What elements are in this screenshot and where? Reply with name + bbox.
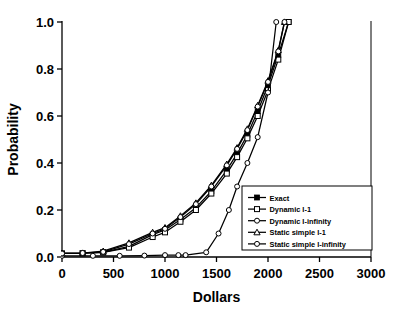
series-4-point-1 xyxy=(80,251,85,256)
series-1-point-10 xyxy=(235,155,240,160)
series-4-point-4 xyxy=(150,231,155,236)
series-4-point-10 xyxy=(235,146,240,151)
legend-label-2: Dynamic I-infinity xyxy=(270,217,332,226)
legend: ExactDynamic I-1Dynamic I-infinityStatic… xyxy=(242,186,372,250)
series-4-point-9 xyxy=(224,163,229,168)
series-4-point-6 xyxy=(178,215,183,220)
legend-label-0: Exact xyxy=(270,194,290,203)
x-tick-label-5: 2500 xyxy=(305,266,334,281)
y-axis-title: Probability xyxy=(5,103,21,176)
series-4-point-12 xyxy=(255,104,260,109)
x-tick-label-3: 1500 xyxy=(202,266,231,281)
series-4-point-8 xyxy=(209,184,214,189)
series-1-point-12 xyxy=(255,114,260,119)
y-tick-label-0: 0.0 xyxy=(36,250,54,265)
legend-marker-4 xyxy=(255,241,260,246)
series-1-point-9 xyxy=(224,171,229,176)
series-4-point-5 xyxy=(163,226,168,231)
legend-label-3: Static simple I-1 xyxy=(270,228,326,237)
series-1-point-8 xyxy=(209,191,214,196)
series-2-point-6 xyxy=(183,253,188,258)
y-tick-label-2: 0.4 xyxy=(36,156,55,171)
series-4-point-13 xyxy=(266,79,271,84)
y-tick-label-1: 0.2 xyxy=(36,203,54,218)
x-tick-label-4: 2000 xyxy=(254,266,283,281)
series-2-point-5 xyxy=(176,253,181,258)
series-2-point-11 xyxy=(245,161,250,166)
cdf-line-chart: 0.00.20.40.60.81.00500100015002000250030… xyxy=(0,0,405,328)
y-tick-label-4: 0.8 xyxy=(36,62,54,77)
series-2-point-12 xyxy=(255,135,260,140)
y-tick-label-5: 1.0 xyxy=(36,15,54,30)
series-4-point-11 xyxy=(245,128,250,133)
series-2-point-1 xyxy=(90,253,95,258)
series-2-point-13 xyxy=(266,90,271,95)
x-axis-title: Dollars xyxy=(193,289,241,305)
series-4-point-15 xyxy=(282,20,287,25)
series-2-point-4 xyxy=(163,253,168,258)
series-4-point-3 xyxy=(126,242,131,247)
x-tick-label-2: 1000 xyxy=(151,266,180,281)
series-4-point-7 xyxy=(193,202,198,207)
series-2-point-10 xyxy=(235,184,240,189)
chart-container: 0.00.20.40.60.81.00500100015002000250030… xyxy=(0,0,405,328)
series-1-point-7 xyxy=(193,208,198,213)
y-tick-label-3: 0.6 xyxy=(36,109,54,124)
series-1-point-11 xyxy=(245,136,250,141)
series-2-point-7 xyxy=(204,250,209,255)
series-2-point-9 xyxy=(226,208,231,213)
series-4-point-2 xyxy=(101,249,106,254)
legend-marker-1 xyxy=(255,207,260,212)
legend-label-4: Static simple I-infinity xyxy=(270,240,347,249)
series-2-point-3 xyxy=(142,253,147,258)
series-2-point-2 xyxy=(117,253,122,258)
series-2-point-8 xyxy=(216,231,221,236)
series-2-point-14 xyxy=(274,20,279,25)
x-tick-label-1: 500 xyxy=(103,266,125,281)
legend-marker-0 xyxy=(255,195,260,200)
series-4-point-14 xyxy=(276,49,281,54)
x-tick-label-6: 3000 xyxy=(357,266,386,281)
x-tick-label-0: 0 xyxy=(58,266,65,281)
legend-marker-2 xyxy=(255,218,260,223)
legend-label-1: Dynamic I-1 xyxy=(270,205,312,214)
